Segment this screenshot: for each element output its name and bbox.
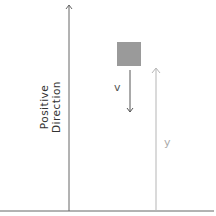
label-line-direction: Direction xyxy=(50,81,62,133)
falling-box xyxy=(117,42,141,66)
diagram-canvas xyxy=(0,0,216,216)
position-label: y xyxy=(164,137,171,148)
velocity-label: v xyxy=(114,82,121,93)
positive-direction-axis-arrow xyxy=(66,5,72,211)
velocity-arrow xyxy=(127,70,133,112)
label-line-positive: Positive xyxy=(38,81,50,133)
position-arrow xyxy=(152,68,160,211)
positive-direction-label: Positive Direction xyxy=(38,81,62,133)
